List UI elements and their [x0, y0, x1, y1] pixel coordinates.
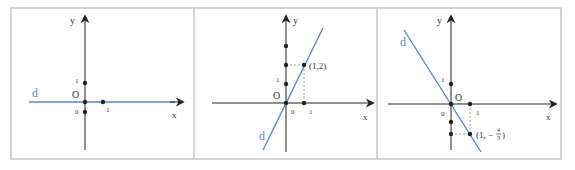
zero-label: 0	[291, 108, 295, 116]
y-neg-four-thirds-point	[449, 132, 453, 136]
y-one-label: 1	[276, 76, 280, 84]
x-one-label: 1	[106, 106, 110, 114]
origin-label: O	[72, 89, 79, 100]
point-label-suffix: )	[502, 130, 505, 140]
y-two-point	[284, 63, 288, 67]
origin-label: O	[273, 90, 280, 101]
y-one-point	[83, 81, 87, 85]
x-one-point	[302, 101, 306, 105]
line-label: d	[400, 35, 406, 49]
point-1-2	[302, 63, 306, 67]
x-one-label: 1	[476, 109, 480, 117]
y-one-point	[449, 82, 453, 86]
x-one-point	[468, 102, 472, 106]
origin-point	[449, 102, 453, 106]
x-axis-label: x	[172, 110, 177, 120]
y-neg-one-point	[449, 120, 453, 124]
point-label-numerator: 4	[497, 127, 500, 133]
y-three-point	[284, 44, 288, 48]
below-origin-point	[83, 110, 87, 114]
y-one-label: 1	[441, 76, 445, 84]
line-d	[263, 28, 323, 150]
x-one-point	[101, 100, 105, 104]
y-axis-label: y	[70, 15, 75, 26]
y-one-label: 1	[75, 77, 79, 85]
origin-point	[83, 100, 87, 104]
x-one-label: 1	[309, 108, 313, 116]
x-axis-label: x	[363, 112, 368, 122]
origin-label: O	[455, 92, 462, 103]
panel-2: y x O d (1,2) 1 0 1	[212, 15, 373, 152]
line-label: d	[32, 86, 38, 100]
point-label: (1,2)	[309, 61, 326, 71]
origin-point	[284, 101, 288, 105]
x-axis-label: x	[546, 112, 551, 122]
panel-1: y x O d 1 0 1	[29, 15, 183, 150]
figure-three-lines: y x O d 1 0 1 y x O d (1,2) 1 0 1	[0, 0, 575, 170]
panel-3: y x O d 1 0 1 (1, − 4 3 )	[388, 15, 556, 152]
y-axis-label: y	[437, 15, 442, 26]
point-label-prefix: (1, −	[476, 130, 493, 140]
point-label-denominator: 3	[497, 135, 500, 141]
zero-label: 0	[441, 110, 445, 118]
zero-label: 0	[75, 108, 79, 116]
point-label: (1, − 4 3 )	[476, 127, 505, 141]
point-1-neg-4-3	[468, 132, 472, 136]
y-one-point	[284, 82, 288, 86]
line-label: d	[259, 129, 265, 143]
y-axis-label: y	[293, 15, 298, 26]
